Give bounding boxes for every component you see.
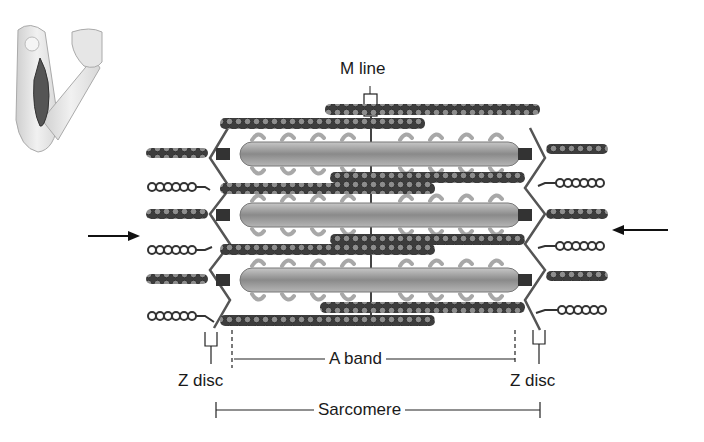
sarcomere-label: Sarcomere (314, 401, 405, 419)
m-line-label: M line (336, 60, 389, 78)
arrow-right-icon (88, 231, 140, 241)
z-disc-left-bracket (205, 332, 217, 364)
z-disc-right-label: Z disc (510, 372, 555, 390)
arrow-left-icon (612, 225, 668, 235)
a-band-label: A band (325, 350, 386, 368)
z-disc-left-label: Z disc (178, 372, 223, 390)
z-disc-right-bracket (533, 330, 545, 364)
flexed-arm-biceps-icon (16, 25, 102, 152)
thick-filaments (216, 134, 532, 299)
